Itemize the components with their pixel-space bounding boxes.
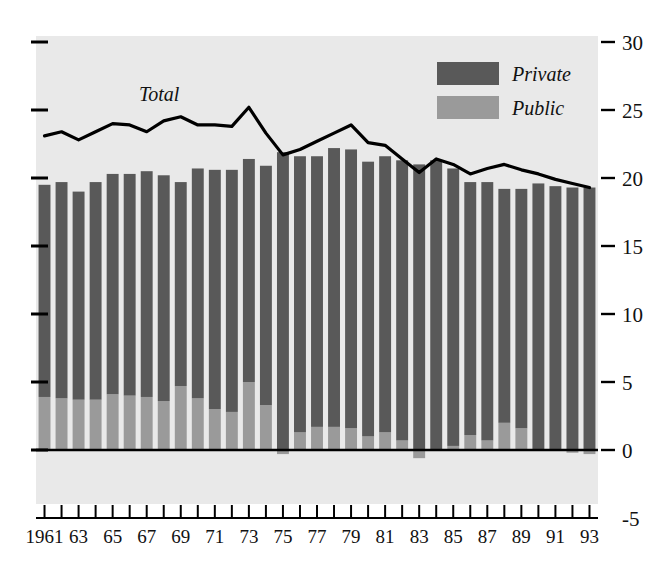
bar-public-1967 (141, 397, 153, 450)
bar-private-1975 (277, 152, 289, 450)
x-tick-label-1969: 69 (171, 526, 190, 547)
bar-private-1961 (39, 185, 51, 397)
x-tick-label-1961: 1961 (26, 526, 64, 547)
bar-public-1980 (362, 436, 374, 450)
bar-private-1966 (124, 174, 136, 396)
y-axis-ticks-right (601, 42, 615, 450)
bar-private-1981 (379, 156, 391, 432)
bar-public-1963 (73, 400, 85, 450)
bar-public-1973 (243, 382, 255, 450)
bar-private-1986 (464, 182, 476, 435)
chart-canvas: -5051015202530 1961636567697173757779818… (0, 0, 669, 569)
bar-public-1986 (464, 435, 476, 450)
y-tick-label-15: 15 (622, 235, 643, 259)
legend-label-private: Private (511, 63, 571, 85)
x-tick-label-1991: 91 (546, 526, 565, 547)
bar-private-1965 (107, 174, 119, 394)
bar-private-1992 (566, 188, 578, 450)
bar-private-1971 (209, 170, 221, 409)
bar-public-1961 (39, 397, 51, 450)
x-tick-label-1981: 81 (376, 526, 395, 547)
total-series-annotation: Total (139, 83, 180, 105)
bar-private-1973 (243, 159, 255, 382)
bar-series-private (39, 148, 596, 450)
bar-public-1989 (515, 428, 527, 450)
bar-public-1974 (260, 405, 272, 450)
x-tick-label-1993: 93 (580, 526, 599, 547)
chart-figure: -5051015202530 1961636567697173757779818… (0, 0, 669, 569)
bar-private-1963 (73, 192, 85, 400)
bar-public-1966 (124, 396, 136, 450)
y-axis-tick-labels: -5051015202530 (622, 31, 643, 531)
x-axis-ticks (45, 505, 590, 518)
legend-label-public: Public (511, 97, 564, 119)
bar-private-1980 (362, 162, 374, 437)
y-tick-label--5: -5 (622, 507, 640, 531)
bar-public-1981 (379, 432, 391, 450)
x-tick-label-1985: 85 (444, 526, 463, 547)
bar-public-1976 (294, 432, 306, 450)
x-tick-label-1987: 87 (478, 526, 497, 547)
bar-public-1964 (90, 400, 102, 450)
bar-private-1978 (328, 148, 340, 427)
bar-private-1964 (90, 182, 102, 400)
y-tick-label-30: 30 (622, 31, 643, 55)
legend-swatch-private (437, 62, 499, 85)
bar-public-1969 (175, 386, 187, 450)
bar-private-1967 (141, 171, 153, 397)
y-tick-label-0: 0 (622, 439, 633, 463)
bar-public-1982 (396, 440, 408, 450)
bar-public-1962 (56, 398, 68, 450)
bar-private-1985 (447, 168, 459, 445)
bar-private-1970 (192, 168, 204, 398)
x-tick-label-1971: 71 (205, 526, 224, 547)
bar-private-1988 (498, 189, 510, 423)
x-tick-label-1979: 79 (342, 526, 361, 547)
bar-public-1965 (107, 394, 119, 450)
bar-public-1968 (158, 401, 170, 450)
bar-private-1987 (481, 182, 493, 440)
x-tick-label-1977: 77 (308, 526, 327, 547)
bar-public-1977 (311, 427, 323, 450)
bar-public-1988 (498, 423, 510, 450)
x-tick-label-1963: 63 (69, 526, 88, 547)
bar-private-1972 (226, 170, 238, 412)
bar-public-1972 (226, 412, 238, 450)
bar-private-1991 (549, 186, 561, 450)
x-tick-label-1975: 75 (273, 526, 292, 547)
x-tick-label-1989: 89 (512, 526, 531, 547)
bar-private-1993 (584, 188, 596, 450)
y-tick-label-25: 25 (622, 99, 643, 123)
bar-private-1968 (158, 175, 170, 401)
y-tick-label-10: 10 (622, 303, 643, 327)
bar-public-1971 (209, 409, 221, 450)
bar-private-1974 (260, 166, 272, 405)
bar-private-1977 (311, 156, 323, 427)
y-tick-label-5: 5 (622, 371, 633, 395)
bar-private-1979 (345, 149, 357, 428)
x-axis-tick-labels: 196163656769717375777981838587899193 (26, 526, 599, 547)
bar-private-1962 (56, 182, 68, 398)
y-tick-label-20: 20 (622, 167, 643, 191)
bar-private-1982 (396, 160, 408, 440)
x-tick-label-1965: 65 (103, 526, 122, 547)
bar-private-1983 (413, 164, 425, 450)
bar-private-1989 (515, 189, 527, 428)
bar-public-1970 (192, 398, 204, 450)
legend-swatch-public (437, 96, 499, 119)
bar-private-1969 (175, 182, 187, 386)
bar-private-1990 (532, 183, 544, 450)
bar-public-1978 (328, 427, 340, 450)
x-tick-label-1973: 73 (239, 526, 258, 547)
chart-legend: Private Public (437, 62, 571, 119)
x-tick-label-1967: 67 (137, 526, 156, 547)
bar-private-1976 (294, 156, 306, 432)
x-tick-label-1983: 83 (410, 526, 429, 547)
bar-private-1984 (430, 160, 442, 450)
bar-public-1987 (481, 440, 493, 450)
bar-public-1979 (345, 428, 357, 450)
